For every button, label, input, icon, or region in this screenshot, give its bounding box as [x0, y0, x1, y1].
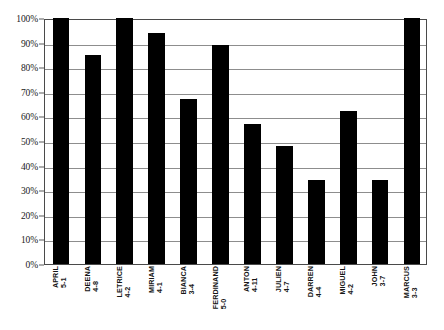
x-axis-category-label: MARCUS3-3: [395, 266, 427, 328]
y-axis-tick-label: 100%: [16, 14, 38, 24]
x-axis-category-label: MIRIAM4-1: [140, 266, 172, 328]
bar: [372, 180, 389, 264]
x-axis-category-label: ANTON4-11: [236, 266, 268, 328]
y-axis-tick-label: 40%: [21, 162, 38, 172]
y-axis-tick-label: 60%: [21, 112, 38, 122]
bar: [276, 146, 293, 264]
x-axis-category-label: LETRICE4-2: [108, 266, 140, 328]
x-axis-category-code: 4-2: [124, 266, 132, 297]
x-axis-category-code: 4-11: [251, 266, 259, 292]
x-axis-category-label: JOHN3-7: [363, 266, 395, 328]
x-axis-category-code: 3-7: [379, 266, 387, 286]
x-axis-category-code: 5-1: [60, 266, 68, 288]
bar-chart: 100%90%80%70%60%50%40%30%20%10%0% APRIL5…: [0, 0, 444, 330]
y-axis-tick-label: 90%: [21, 39, 38, 49]
y-axis-tick-label: 70%: [21, 88, 38, 98]
y-axis-tick-label: 30%: [21, 186, 38, 196]
y-axis-tick-label: 80%: [21, 63, 38, 73]
x-axis-category-code: 4-2: [347, 266, 355, 295]
x-axis-category-label: APRIL5-1: [44, 266, 76, 328]
x-axis-category-label: DARREN4-4: [299, 266, 331, 328]
x-axis-category-code: 3-4: [188, 266, 196, 295]
bar: [244, 124, 261, 264]
x-axis: APRIL5-1DEENA4-8LETRICE4-2MIRIAM4-1BIANC…: [44, 266, 427, 330]
bar: [180, 99, 197, 264]
bar: [116, 18, 133, 264]
bar: [148, 33, 165, 264]
y-axis-tick-label: 20%: [21, 211, 38, 221]
plot-area: [44, 19, 427, 265]
x-axis-category-code: 4-4: [315, 266, 323, 297]
x-axis-category-label: MIGUEL4-2: [331, 266, 363, 328]
x-axis-category-label: JULIEN4-7: [267, 266, 299, 328]
x-axis-category-label: BIANCA3-4: [172, 266, 204, 328]
bar: [53, 18, 70, 264]
y-axis-tick-label: 10%: [21, 235, 38, 245]
x-axis-category-label: FERDINAND5-0: [204, 266, 236, 328]
bar: [212, 45, 229, 264]
bar: [404, 18, 421, 264]
y-axis-tick-label: 0%: [26, 260, 38, 270]
bar: [340, 111, 357, 264]
x-axis-category-code: 4-1: [156, 266, 164, 293]
y-axis: 100%90%80%70%60%50%40%30%20%10%0%: [0, 0, 44, 280]
y-axis-tick-label: 50%: [21, 137, 38, 147]
x-axis-category-label: DEENA4-8: [76, 266, 108, 328]
x-axis-category-name: FERDINAND: [210, 266, 219, 309]
x-axis-category-code: 4-7: [283, 266, 291, 292]
x-axis-category-name: BIANCA: [178, 266, 187, 295]
x-axis-category-code: 5-0: [220, 266, 228, 309]
x-axis-category-code: 4-8: [92, 266, 100, 292]
x-axis-category-name: MIRIAM: [146, 266, 155, 293]
bar: [85, 55, 102, 264]
bar: [308, 180, 325, 264]
x-axis-category-code: 3-3: [411, 266, 419, 298]
bars-series: [45, 20, 426, 264]
